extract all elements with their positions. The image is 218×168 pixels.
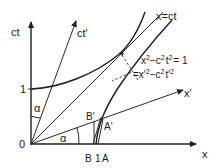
point-a-prime-label: A' (104, 121, 113, 132)
angle-arc-space (77, 128, 79, 144)
light-line-label: x=ct (156, 10, 176, 22)
invariant-equation: =x′2−c2t′2 (133, 68, 174, 80)
point-b-label: B (85, 153, 92, 164)
alpha-time-label: α (34, 102, 41, 114)
ct-unit-label: 1 (20, 83, 26, 95)
minkowski-diagram: ct x 0 ct' x' x=ct 1 x2−c2t2= 1 =x′2−c2t… (0, 0, 218, 168)
point-a-label: A (102, 153, 109, 164)
x-unit-label: 1 (95, 153, 101, 164)
x-prime-axis-label: x' (184, 87, 192, 99)
ct-prime-axis (31, 21, 76, 144)
x-prime-axis (31, 90, 183, 144)
x-axis-label: x (202, 148, 208, 160)
origin-label: 0 (19, 138, 25, 150)
equation-pointer-lower-b (130, 72, 131, 73)
upper-hyperbola (31, 12, 145, 89)
hyperbola-equation: x2−c2t2= 1 (141, 54, 188, 66)
ct-axis-label: ct (11, 26, 20, 38)
angle-arc-time (31, 116, 41, 118)
point-b-prime-label: B' (86, 111, 95, 122)
ct-prime-axis-label: ct' (77, 27, 88, 39)
alpha-space-label: α (60, 132, 67, 144)
